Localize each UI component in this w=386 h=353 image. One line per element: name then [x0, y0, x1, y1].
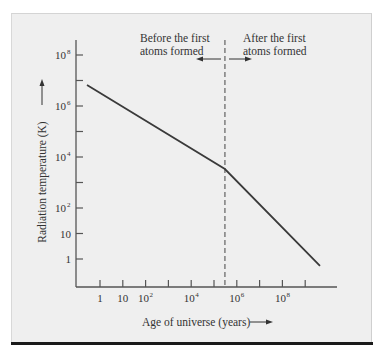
y-tick-label: 10 [55, 100, 67, 112]
x-tick-label: 10 [138, 292, 150, 304]
x-tick-label: 10 [229, 292, 241, 304]
x-ticks: 110102104106108 [97, 280, 305, 304]
before-label-line1: Before the first [140, 32, 210, 44]
x-tick-exponent: 6 [241, 291, 245, 299]
chart: 110102104106108 110102104106108 Before t… [0, 0, 386, 353]
x-axis-arrow-icon [250, 320, 273, 325]
y-tick-label: 10 [55, 202, 67, 214]
axes [76, 40, 337, 287]
y-axis-label: Radiation temperature (K) [36, 121, 49, 243]
x-tick-exponent: 2 [150, 291, 154, 299]
x-tick-label: 10 [117, 292, 129, 304]
after-label-line2: atoms formed [243, 45, 307, 57]
y-tick-exponent: 2 [67, 201, 71, 209]
y-tick-label: 10 [55, 151, 67, 163]
y-tick-exponent: 4 [67, 150, 71, 158]
x-tick-exponent: 4 [195, 291, 199, 299]
y-tick-label: 10 [60, 228, 72, 240]
x-axis-label: Age of universe (years) [142, 316, 250, 329]
y-tick-label: 10 [55, 49, 67, 61]
temperature-line [87, 85, 320, 266]
x-tick-label: 10 [275, 292, 287, 304]
y-tick-label: 1 [66, 253, 72, 265]
y-tick-exponent: 6 [67, 99, 71, 107]
x-tick-label: 1 [97, 292, 103, 304]
y-axis-arrow-icon [40, 79, 45, 105]
y-tick-exponent: 8 [67, 48, 71, 56]
left-arrow-icon [196, 57, 221, 62]
x-tick-label: 10 [184, 292, 196, 304]
after-label-line1: After the first [243, 32, 306, 44]
x-tick-exponent: 8 [286, 291, 290, 299]
right-arrow-icon [229, 57, 252, 62]
y-ticks: 110102104106108 [55, 48, 83, 265]
before-label-line2: atoms formed [140, 45, 204, 57]
